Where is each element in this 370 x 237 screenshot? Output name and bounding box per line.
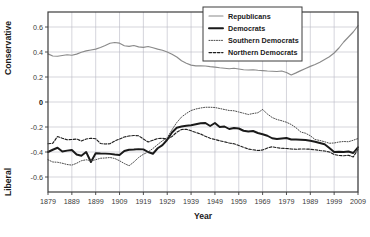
- y-axis-label-conservative: Conservative: [3, 21, 13, 75]
- chart-legend[interactable]: RepublicansDemocratsSouthern DemocratsNo…: [203, 7, 302, 61]
- y-tick-label: 0.4: [33, 48, 43, 57]
- y-axis-label-liberal: Liberal: [3, 168, 13, 196]
- legend-label-northern-democrats[interactable]: Northern Democrats: [228, 48, 298, 57]
- x-tick-label: 1939: [183, 197, 199, 206]
- x-tick-label: 1919: [135, 197, 151, 206]
- x-tick-label: 1979: [278, 197, 294, 206]
- y-tick-label: -0.4: [31, 148, 43, 157]
- x-tick-label: 1999: [326, 197, 342, 206]
- chart-container: 0.60.40.20-0.2-0.4-0.6 18791889189919091…: [0, 0, 370, 237]
- x-tick-label: 1959: [231, 197, 247, 206]
- x-tick-label: 2009: [350, 197, 366, 206]
- political-polarization-line-chart: 0.60.40.20-0.2-0.4-0.6 18791889189919091…: [0, 0, 370, 237]
- y-tick-label: -0.6: [31, 173, 43, 182]
- x-tick-label: 1989: [302, 197, 318, 206]
- legend-label-southern-democrats[interactable]: Southern Democrats: [228, 36, 299, 45]
- x-tick-label: 1909: [112, 197, 128, 206]
- x-tick-label: 1879: [40, 197, 56, 206]
- legend-label-republicans[interactable]: Republicans: [228, 12, 271, 21]
- x-tick-label: 1949: [207, 197, 223, 206]
- x-axis-title: Year: [194, 211, 213, 221]
- y-tick-label: 0: [39, 98, 43, 107]
- x-tick-label: 1889: [64, 197, 80, 206]
- x-tick-label: 1969: [255, 197, 271, 206]
- y-tick-label: 0.6: [33, 23, 43, 32]
- legend-label-democrats[interactable]: Democrats: [228, 24, 265, 33]
- x-tick-label: 1899: [88, 197, 104, 206]
- y-tick-label: 0.2: [33, 73, 43, 82]
- x-tick-label: 1929: [159, 197, 175, 206]
- y-tick-label: -0.2: [31, 123, 43, 132]
